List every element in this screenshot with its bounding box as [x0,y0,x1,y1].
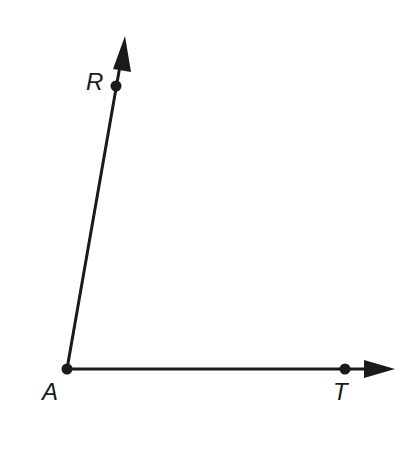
label-a: A [40,378,58,405]
point-r [111,81,122,92]
point-a [62,364,73,375]
ray-ar-arrowhead-icon [113,36,131,72]
angle-diagram: R A T [0,0,413,449]
point-t [340,364,351,375]
ray-at-arrowhead-icon [364,360,395,378]
ray-ar-line [67,60,121,369]
label-t: T [333,378,350,405]
label-r: R [86,68,103,95]
